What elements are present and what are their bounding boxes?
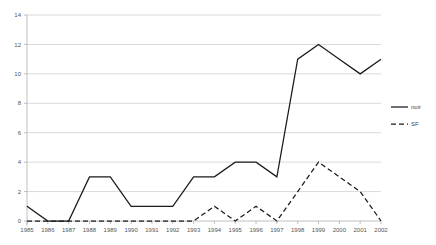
x-tick-label: 1999 — [312, 227, 326, 233]
chart-legend: noirSF — [391, 104, 421, 127]
y-tick-label: 8 — [18, 100, 22, 106]
y-tick-label: 0 — [18, 218, 22, 224]
x-tick-label: 1998 — [291, 227, 305, 233]
y-tick-label: 14 — [14, 12, 21, 18]
x-tick-label: 1995 — [229, 227, 243, 233]
line-chart: 02468101214 1985198619871988198919901991… — [0, 0, 436, 245]
legend-label-SF: SF — [411, 121, 419, 127]
x-tick-label: 1993 — [187, 227, 201, 233]
x-tick-label: 2000 — [333, 227, 347, 233]
x-tick-label: 1997 — [270, 227, 284, 233]
x-tick-label: 1992 — [166, 227, 180, 233]
gridlines — [27, 15, 381, 221]
x-tick-label: 1988 — [83, 227, 97, 233]
y-axis: 02468101214 — [14, 12, 27, 226]
x-axis: 1985198619871988198919901991199219931994… — [20, 221, 388, 233]
x-tick-label: 1985 — [20, 227, 34, 233]
y-tick-label: 12 — [14, 42, 21, 48]
y-tick-label: 6 — [18, 130, 22, 136]
x-tick-label: 1989 — [104, 227, 118, 233]
chart-canvas: 02468101214 1985198619871988198919901991… — [0, 0, 436, 245]
x-tick-label: 1991 — [145, 227, 159, 233]
x-tick-label: 1996 — [249, 227, 263, 233]
x-tick-label: 2002 — [374, 227, 388, 233]
y-tick-label: 4 — [18, 159, 22, 165]
x-tick-label: 1987 — [62, 227, 76, 233]
y-tick-label: 10 — [14, 71, 21, 77]
x-tick-label: 2001 — [353, 227, 367, 233]
y-tick-label: 2 — [18, 189, 22, 195]
x-tick-label: 1990 — [124, 227, 138, 233]
x-tick-label: 1994 — [208, 227, 222, 233]
x-tick-label: 1986 — [41, 227, 55, 233]
legend-label-noir: noir — [411, 104, 421, 110]
